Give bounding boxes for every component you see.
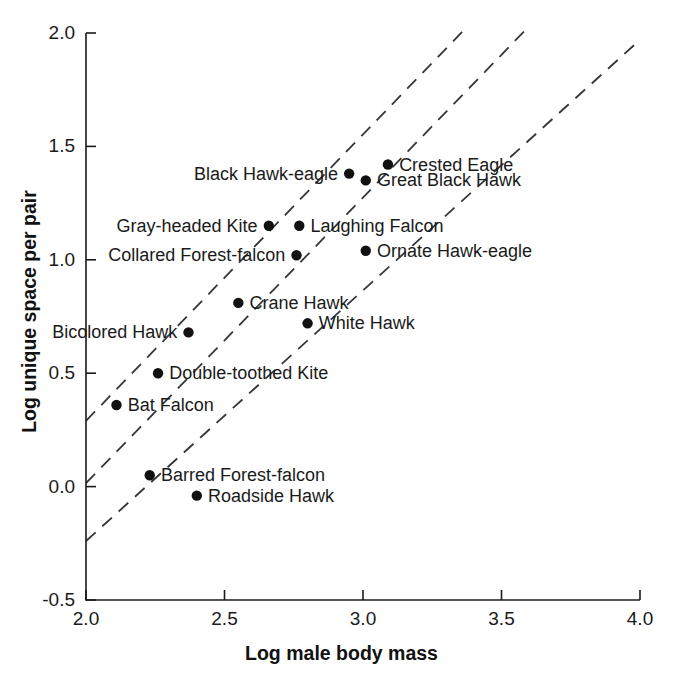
point-label: White Hawk [319, 313, 415, 334]
point-label: Bat Falcon [128, 394, 214, 415]
point-label: Ornate Hawk-eagle [377, 240, 532, 261]
point-label: Black Hawk-eagle [194, 163, 338, 184]
data-point [294, 221, 304, 231]
point-label: Collared Forest-falcon [108, 245, 285, 266]
data-point [111, 400, 121, 410]
y-tick-label-0: 2.0 [49, 22, 75, 44]
data-point [264, 221, 274, 231]
data-point [361, 246, 371, 256]
point-label: Great Black Hawk [377, 170, 521, 191]
x-tick-label-1: 2.5 [211, 608, 237, 630]
x-tick-label-2: 3.0 [350, 608, 376, 630]
data-point [383, 159, 393, 169]
data-point [145, 470, 155, 480]
y-axis-title: Log unique space per pair [18, 152, 41, 472]
x-tick-label-3: 3.5 [488, 608, 514, 630]
scatter-chart: 2.01.51.00.50.0-0.5 2.02.53.03.54.0 Cres… [0, 0, 683, 673]
y-tick-label-4: 0.0 [49, 476, 75, 498]
data-point [233, 298, 243, 308]
data-point [291, 250, 301, 260]
y-tick-label-2: 1.0 [49, 249, 75, 271]
point-label: Crane Hawk [250, 292, 349, 313]
x-axis-title: Log male body mass [0, 642, 683, 665]
point-label: Double-toothed Kite [169, 363, 328, 384]
x-tick-label-4: 4.0 [627, 608, 653, 630]
data-point [153, 368, 163, 378]
point-label: Laughing Falcon [310, 215, 443, 236]
point-label: Gray-headed Kite [117, 215, 258, 236]
point-label: Roadside Hawk [208, 485, 334, 506]
data-point [192, 490, 202, 500]
x-tick-label-0: 2.0 [73, 608, 99, 630]
y-tick-label-5: -0.5 [42, 589, 75, 611]
data-point [302, 318, 312, 328]
data-point [361, 175, 371, 185]
y-tick-label-1: 1.5 [49, 135, 75, 157]
data-point [183, 327, 193, 337]
point-label: Barred Forest-falcon [161, 465, 325, 486]
point-label: Bicolored Hawk [52, 322, 177, 343]
y-tick-label-3: 0.5 [49, 362, 75, 384]
data-point [344, 168, 354, 178]
